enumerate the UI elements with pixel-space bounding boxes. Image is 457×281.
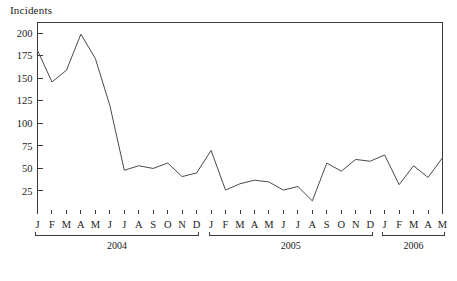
year-bracket xyxy=(36,232,199,236)
x-tick-label: M xyxy=(235,219,245,230)
x-tick-label: O xyxy=(164,219,172,230)
x-tick-label: N xyxy=(178,219,186,230)
x-tick-label: J xyxy=(296,219,300,230)
x-tick-label: D xyxy=(366,219,374,230)
incidents-series-line xyxy=(38,34,443,201)
x-tick-label: S xyxy=(324,219,330,230)
incidents-line-chart: Incidents 255075100125150175200 JFMAMJJA… xyxy=(0,0,457,281)
x-tick-label: M xyxy=(409,219,419,230)
x-tick-label: M xyxy=(62,219,72,230)
x-tick-label: M xyxy=(264,219,274,230)
x-tick-label: D xyxy=(193,219,201,230)
x-axis-ticks xyxy=(38,210,443,214)
y-tick-label: 25 xyxy=(22,186,33,197)
x-tick-label: A xyxy=(77,219,85,230)
year-bracket xyxy=(209,232,372,236)
x-tick-label: A xyxy=(251,219,259,230)
x-tick-label: A xyxy=(424,219,432,230)
y-tick-label: 50 xyxy=(22,163,33,174)
x-tick-label: F xyxy=(223,219,229,230)
year-label: 2004 xyxy=(107,240,127,251)
y-tick-label: 100 xyxy=(17,118,33,129)
x-tick-label: J xyxy=(35,219,39,230)
x-tick-label: F xyxy=(396,219,402,230)
y-tick-label: 75 xyxy=(22,141,33,152)
year-bracket xyxy=(383,232,445,236)
x-tick-label: J xyxy=(383,219,387,230)
x-axis-labels: JFMAMJJASONDJFMAMJJASONDJFMAM xyxy=(35,219,447,230)
x-tick-label: F xyxy=(49,219,55,230)
x-tick-label: J xyxy=(122,219,126,230)
x-tick-label: A xyxy=(135,219,143,230)
x-tick-label: M xyxy=(91,219,101,230)
x-tick-label: S xyxy=(150,219,156,230)
x-tick-label: J xyxy=(281,219,285,230)
plot-frame xyxy=(38,23,443,214)
x-tick-label: A xyxy=(309,219,317,230)
x-tick-label: N xyxy=(352,219,360,230)
year-brackets: 200420052006 xyxy=(36,232,445,251)
x-tick-label: M xyxy=(438,219,448,230)
x-tick-label: J xyxy=(209,219,213,230)
year-label: 2005 xyxy=(281,240,301,251)
x-tick-label: O xyxy=(337,219,345,230)
y-tick-label: 175 xyxy=(17,50,33,61)
year-label: 2006 xyxy=(404,240,424,251)
chart-svg: 255075100125150175200 JFMAMJJASONDJFMAMJ… xyxy=(0,0,457,281)
y-tick-label: 200 xyxy=(17,28,33,39)
x-tick-label: J xyxy=(108,219,112,230)
y-tick-label: 125 xyxy=(17,95,33,106)
y-tick-label: 150 xyxy=(17,73,33,84)
